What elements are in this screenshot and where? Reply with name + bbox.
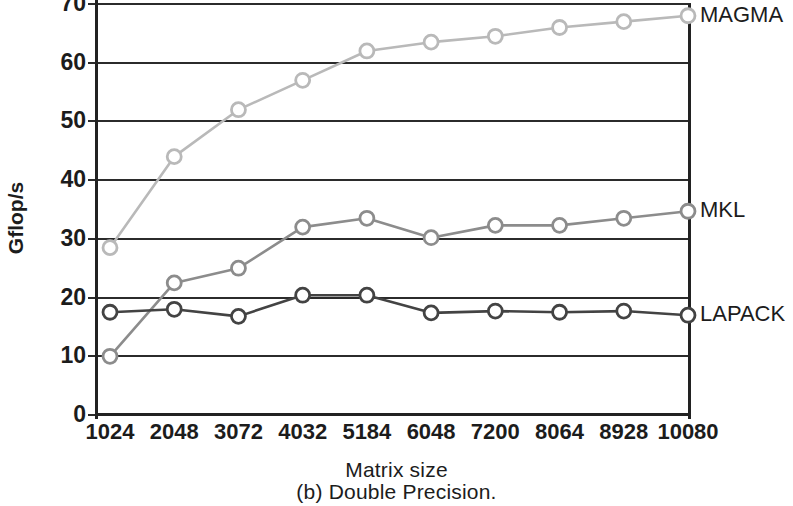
data-point-lapack-1024 bbox=[103, 305, 117, 319]
data-point-lapack-2048 bbox=[167, 302, 181, 316]
x-axis-title: Matrix size bbox=[0, 458, 793, 482]
data-point-lapack-6048 bbox=[424, 306, 438, 320]
x-tick-label-4032: 4032 bbox=[278, 420, 327, 444]
data-point-magma-7200 bbox=[488, 29, 502, 43]
x-tick-label-6048: 6048 bbox=[407, 420, 456, 444]
x-tick-label-1024: 1024 bbox=[86, 420, 135, 444]
data-point-lapack-10080 bbox=[681, 308, 695, 322]
data-point-lapack-5184 bbox=[360, 288, 374, 302]
data-point-lapack-7200 bbox=[488, 304, 502, 318]
series-lapack bbox=[103, 288, 695, 323]
data-point-mkl-10080 bbox=[681, 204, 695, 218]
series-line-lapack bbox=[110, 295, 688, 316]
data-point-lapack-3072 bbox=[231, 309, 245, 323]
x-tick-label-8928: 8928 bbox=[599, 420, 648, 444]
data-point-lapack-4032 bbox=[296, 288, 310, 302]
x-tick-label-5184: 5184 bbox=[342, 420, 391, 444]
series-label-mkl: MKL bbox=[700, 197, 745, 223]
data-point-magma-5184 bbox=[360, 44, 374, 58]
data-point-magma-4032 bbox=[296, 73, 310, 87]
data-point-mkl-7200 bbox=[488, 218, 502, 232]
data-point-magma-6048 bbox=[424, 35, 438, 49]
x-tick-label-7200: 7200 bbox=[471, 420, 520, 444]
data-point-mkl-6048 bbox=[424, 231, 438, 245]
x-tick-label-8064: 8064 bbox=[535, 420, 584, 444]
series-mkl bbox=[103, 204, 695, 363]
series-label-lapack: LAPACK bbox=[700, 301, 785, 327]
series-line-magma bbox=[110, 16, 688, 248]
data-point-magma-10080 bbox=[681, 9, 695, 23]
data-point-lapack-8928 bbox=[617, 304, 631, 318]
data-point-magma-2048 bbox=[167, 150, 181, 164]
data-point-mkl-8064 bbox=[553, 218, 567, 232]
data-point-mkl-1024 bbox=[103, 349, 117, 363]
series-magma bbox=[103, 9, 695, 255]
data-point-mkl-8928 bbox=[617, 211, 631, 225]
figure-caption: (b) Double Precision. bbox=[0, 480, 793, 504]
data-point-magma-8928 bbox=[617, 15, 631, 29]
series-line-mkl bbox=[110, 211, 688, 356]
data-point-mkl-4032 bbox=[296, 220, 310, 234]
x-tick-label-3072: 3072 bbox=[214, 420, 263, 444]
data-point-mkl-5184 bbox=[360, 211, 374, 225]
data-point-magma-8064 bbox=[553, 20, 567, 34]
x-tick-label-2048: 2048 bbox=[150, 420, 199, 444]
series-label-magma: MAGMA bbox=[700, 2, 783, 28]
data-point-lapack-8064 bbox=[553, 305, 567, 319]
data-point-mkl-2048 bbox=[167, 276, 181, 290]
data-point-magma-1024 bbox=[103, 241, 117, 255]
figure-double-precision-performance: Gflop/s 706050403020100 1024204830724032… bbox=[0, 0, 793, 506]
x-tick-label-10080: 10080 bbox=[657, 420, 718, 444]
data-point-magma-3072 bbox=[231, 103, 245, 117]
data-point-mkl-3072 bbox=[231, 261, 245, 275]
